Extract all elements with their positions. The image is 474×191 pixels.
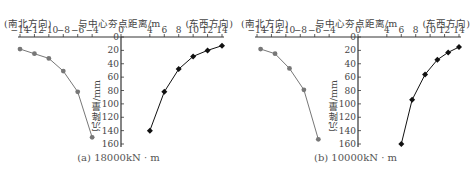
data-point-marker <box>301 87 306 92</box>
y-tick-label: 20 <box>345 45 357 55</box>
y-tick-label: 140 <box>339 126 356 136</box>
x-tick-label: 6 <box>161 25 167 35</box>
data-point-marker <box>147 128 153 134</box>
data-point-marker <box>46 56 51 61</box>
y-tick-label: 120 <box>339 112 356 122</box>
y-tick-label: 0 <box>350 32 356 42</box>
series-line <box>401 47 459 144</box>
data-point-marker <box>90 135 95 140</box>
y-axis-title: 沉降量/mm <box>327 80 341 131</box>
y-axis-title: 沉降量/mm <box>90 80 104 131</box>
data-point-marker <box>205 47 211 53</box>
y-tick-label: 160 <box>339 139 356 149</box>
y-tick-label: 140 <box>102 126 119 136</box>
y-tick-label: 0 <box>113 32 119 42</box>
y-tick-label: 160 <box>102 139 119 149</box>
data-point-marker <box>161 89 167 95</box>
chart-caption: (a) 18000kN · m <box>0 152 237 163</box>
direction-label-ns: (南北方向) <box>4 16 51 30</box>
data-point-marker <box>445 49 451 55</box>
y-tick-label: 100 <box>102 99 119 109</box>
direction-label-ns: (南北方向) <box>241 16 288 30</box>
chart-panel-b: −14−12−10−8−6−40468101214020406080100120… <box>237 0 474 191</box>
y-tick-label: 40 <box>108 59 120 69</box>
data-point-marker <box>75 89 80 94</box>
y-tick-label: 80 <box>345 86 357 96</box>
data-point-marker <box>316 137 321 142</box>
y-tick-label: 100 <box>339 99 356 109</box>
series-line <box>261 49 319 139</box>
data-point-marker <box>32 51 37 56</box>
data-point-marker <box>258 47 263 52</box>
x-tick-label: 6 <box>398 25 404 35</box>
y-tick-label: 40 <box>345 59 357 69</box>
x-axis-title: 与中心夯点距离/m <box>78 16 160 30</box>
y-tick-label: 20 <box>108 45 120 55</box>
y-tick-label: 60 <box>345 72 357 82</box>
data-point-marker <box>18 47 23 52</box>
x-tick-label: 8 <box>413 25 419 35</box>
chart-caption: (b) 10000kN · m <box>237 152 474 163</box>
x-axis-title: 与中心夯点距离/m <box>315 16 397 30</box>
data-point-marker <box>456 44 462 50</box>
series-line <box>150 46 222 131</box>
data-point-marker <box>409 97 415 103</box>
x-tick-label: −8 <box>294 25 308 35</box>
data-point-marker <box>219 43 225 49</box>
x-tick-label: 8 <box>176 25 182 35</box>
y-tick-label: 60 <box>108 72 120 82</box>
data-point-marker <box>273 51 278 56</box>
chart-panel-a: −14−12−10−8−6−40468101214020406080100120… <box>0 0 237 191</box>
series-line <box>20 49 92 137</box>
direction-label-ew: (东西方向) <box>186 16 233 30</box>
y-tick-label: 80 <box>108 86 120 96</box>
data-point-marker <box>61 69 66 74</box>
data-point-marker <box>398 141 404 147</box>
data-point-marker <box>287 66 292 71</box>
y-tick-label: 120 <box>102 112 119 122</box>
direction-label-ew: (东西方向) <box>423 16 470 30</box>
x-tick-label: −8 <box>57 25 71 35</box>
